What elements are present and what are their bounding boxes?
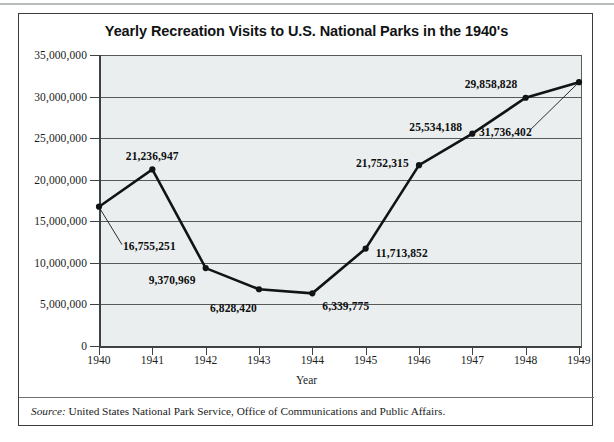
x-axis-tick-label: 1945 [354,354,377,366]
y-axis-tick [90,180,99,181]
y-axis-tick-label: 30,000,000 [34,91,87,103]
gridline [101,263,581,264]
chart-title: Yearly Recreation Visits to U.S. Nationa… [19,23,594,39]
y-axis-tick-label: 10,000,000 [34,257,87,269]
y-axis-tick [90,55,99,56]
data-point-label: 25,534,188 [409,121,462,133]
data-point-label: 21,236,947 [126,150,179,162]
data-point-label: 6,339,775 [322,300,369,312]
x-axis-tick-label: 1943 [247,354,270,366]
x-axis-tick-label: 1948 [514,354,537,366]
x-axis-tick-label: 1947 [461,354,484,366]
page-top-rule [0,3,614,5]
data-point-label: 31,736,402 [479,126,532,138]
x-axis-tick-label: 1949 [567,354,590,366]
y-axis-tick [90,138,99,139]
y-axis-tick-label: 15,000,000 [34,215,87,227]
y-axis-tick-label: 20,000,000 [34,174,87,186]
x-axis-tick-label: 1941 [141,354,164,366]
x-axis-tick-label: 1944 [301,354,324,366]
figure-container: Yearly Recreation Visits to U.S. Nationa… [18,13,593,426]
data-point-label: 16,755,251 [123,240,176,252]
gridline [101,180,581,181]
gridline [101,55,581,56]
x-axis-tick-label: 1940 [87,354,110,366]
gridline [101,138,581,139]
y-axis-tick [90,346,99,347]
y-axis-label-group: 05,000,00010,000,00015,000,00020,000,000… [19,14,87,427]
source-note: Source: United States National Park Serv… [31,405,445,417]
y-axis-tick [90,221,99,222]
gridline [101,221,581,222]
x-axis-tick-label: 1946 [407,354,430,366]
data-point-label: 11,713,852 [376,247,428,259]
data-point-label: 29,858,828 [465,78,518,90]
y-axis-tick [90,304,99,305]
y-axis-tick-label: 35,000,000 [34,49,87,61]
y-axis-tick-label: 25,000,000 [34,132,87,144]
y-axis-tick-label: 0 [81,340,87,352]
y-axis-tick [90,263,99,264]
x-axis-tick-label: 1942 [194,354,217,366]
y-axis-tick [90,97,99,98]
gridline [101,97,581,98]
x-axis-title: Year [19,374,594,386]
y-axis-tick-label: 5,000,000 [40,298,87,310]
source-note-text: United States National Park Service, Off… [66,405,446,417]
data-point-label: 6,828,420 [210,302,257,314]
data-point-label: 9,370,969 [149,274,196,286]
footer-divider [19,397,594,398]
source-note-label: Source: [31,405,66,417]
data-point-label: 21,752,315 [356,157,409,169]
